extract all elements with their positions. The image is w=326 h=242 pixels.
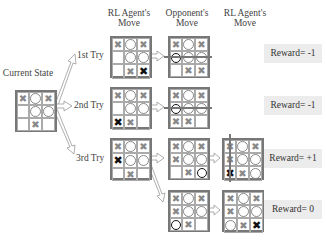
o-mark-icon — [170, 218, 182, 231]
circle-icon — [125, 141, 136, 152]
o-mark-icon — [137, 102, 150, 115]
empty-cell — [195, 218, 208, 231]
x-mark-icon: ✖ — [29, 118, 42, 131]
o-mark-icon — [124, 51, 137, 64]
circle-icon — [250, 154, 261, 165]
x-mark-icon: ✖ — [124, 168, 137, 181]
win-line-opponent-1 — [164, 56, 212, 58]
circle-icon — [183, 141, 194, 152]
empty-cell — [195, 115, 208, 128]
circle-icon — [171, 104, 181, 114]
x-mark-icon: ✖ — [124, 64, 137, 79]
board-rl-final-b: ✖✖✖✖✖ — [222, 190, 264, 232]
x-mark-icon: ✖ — [182, 64, 195, 77]
o-mark-icon — [137, 51, 150, 64]
o-mark-icon — [137, 153, 150, 168]
circle-icon — [238, 193, 249, 204]
circle-icon — [196, 154, 207, 165]
circle-icon — [237, 141, 248, 152]
circle-icon — [125, 90, 136, 101]
circle-icon — [183, 206, 194, 217]
o-mark-icon — [182, 89, 195, 102]
circle-icon — [251, 206, 262, 217]
x-mark-icon: ✖ — [112, 153, 124, 168]
x-mark-icon: ✖ — [237, 218, 250, 233]
circle-icon — [183, 90, 194, 101]
circle-icon — [125, 52, 136, 63]
x-mark-icon: ✖ — [195, 64, 208, 77]
x-mark-icon: ✖ — [195, 89, 208, 102]
o-mark-icon — [124, 140, 137, 153]
o-mark-icon — [124, 153, 137, 168]
x-mark-icon: ✖ — [224, 205, 237, 218]
o-mark-icon — [182, 153, 195, 166]
circle-icon — [183, 193, 194, 204]
x-mark-icon: ✖ — [137, 89, 150, 102]
reward-label-1: Reward= -1 — [264, 44, 322, 63]
circle-icon — [196, 52, 207, 63]
empty-cell — [17, 105, 29, 118]
o-mark-icon — [182, 102, 195, 115]
o-mark-icon — [195, 51, 208, 64]
reward-label-3: Reward= +1 — [264, 149, 322, 168]
circle-icon — [225, 220, 236, 231]
o-mark-icon — [182, 51, 195, 64]
o-mark-icon — [182, 205, 195, 218]
x-mark-icon: ✖ — [250, 218, 263, 233]
empty-cell — [112, 102, 124, 115]
try-label-2: 2nd Try — [74, 100, 104, 110]
x-mark-icon: ✖ — [170, 38, 182, 51]
circle-icon — [171, 53, 181, 63]
o-mark-icon — [249, 153, 262, 166]
x-mark-icon: ✖ — [112, 140, 124, 153]
board-current-state: ✖✖✖ — [15, 90, 57, 132]
empty-cell — [137, 115, 150, 130]
empty-cell — [112, 51, 124, 64]
o-mark-icon — [29, 105, 42, 118]
circle-icon — [183, 103, 194, 114]
circle-icon — [196, 103, 207, 114]
circle-icon — [30, 106, 41, 117]
o-mark-icon — [236, 153, 249, 166]
x-mark-icon: ✖ — [170, 140, 182, 153]
circle-icon — [183, 52, 194, 63]
o-mark-icon — [29, 92, 42, 105]
reward-label-2: Reward= -1 — [264, 96, 322, 115]
circle-icon — [183, 39, 194, 50]
x-mark-icon: ✖ — [195, 192, 208, 205]
x-mark-icon: ✖ — [137, 38, 150, 51]
circle-icon — [138, 52, 149, 63]
circle-icon — [138, 155, 149, 166]
circle-icon — [125, 103, 136, 114]
x-mark-icon: ✖ — [250, 192, 263, 205]
o-mark-icon — [124, 38, 137, 51]
win-line-opponent-2 — [164, 107, 212, 109]
x-mark-icon: ✖ — [224, 192, 237, 205]
empty-cell — [137, 168, 150, 181]
circle-icon — [196, 206, 207, 217]
empty-cell — [112, 168, 124, 181]
x-mark-icon: ✖ — [42, 92, 55, 105]
x-mark-icon: ✖ — [112, 38, 124, 51]
x-mark-icon: ✖ — [170, 153, 182, 166]
x-mark-icon: ✖ — [182, 166, 195, 179]
reward-label-4: Reward= 0 — [264, 200, 322, 219]
o-mark-icon — [224, 218, 237, 233]
o-mark-icon — [42, 105, 55, 118]
x-mark-icon: ✖ — [236, 166, 249, 181]
circle-icon — [183, 154, 194, 165]
empty-cell — [42, 118, 55, 131]
empty-cell — [112, 64, 124, 79]
o-mark-icon — [237, 192, 250, 205]
x-mark-icon: ✖ — [182, 115, 195, 128]
x-mark-icon: ✖ — [112, 115, 124, 130]
x-mark-icon: ✖ — [124, 115, 137, 130]
o-mark-icon — [195, 102, 208, 115]
x-mark-icon: ✖ — [17, 92, 29, 105]
try-label-1: 1st Try — [77, 50, 104, 60]
board-opponent-try-3b: ✖✖✖✖ — [168, 190, 210, 232]
circle-icon — [43, 106, 54, 117]
o-mark-icon — [250, 205, 263, 218]
x-mark-icon: ✖ — [137, 140, 150, 153]
x-mark-icon: ✖ — [170, 205, 182, 218]
